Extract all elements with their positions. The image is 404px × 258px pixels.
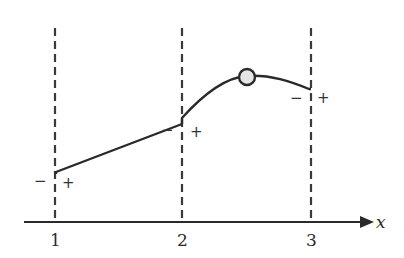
x-axis-arrowhead <box>360 216 374 228</box>
tick-label-3: 3 <box>306 230 317 250</box>
sign-minus-x3: − <box>290 89 303 107</box>
sign-minus-x1: − <box>34 172 47 190</box>
maximum-marker <box>239 69 255 85</box>
tick-label-2: 2 <box>177 230 188 250</box>
diagram-canvas: − + − + − + 1 2 3 x <box>0 0 404 258</box>
x-axis-label: x <box>376 212 386 232</box>
sign-plus-x3: + <box>317 89 330 107</box>
sign-plus-x1: + <box>62 174 75 192</box>
sign-minus-x2: − <box>161 121 174 139</box>
sign-plus-x2: + <box>190 123 203 141</box>
tick-label-1: 1 <box>50 230 61 250</box>
